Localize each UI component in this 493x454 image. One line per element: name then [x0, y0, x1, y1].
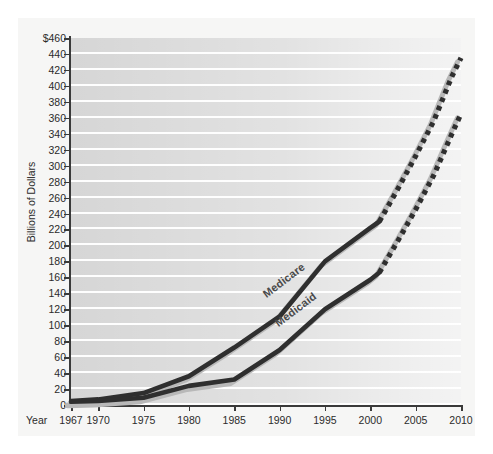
y-tick-label: 420	[4, 65, 66, 75]
gridline	[71, 387, 461, 389]
plot-band	[71, 118, 461, 132]
plot-band	[71, 198, 461, 212]
x-tick-mark	[71, 406, 73, 411]
plot-band	[71, 229, 461, 243]
gridline	[71, 243, 461, 245]
x-tick-label: 1967	[59, 414, 82, 426]
y-tick-mark	[64, 38, 69, 40]
x-tick-mark	[234, 406, 236, 411]
y-tick-mark	[64, 86, 69, 88]
plot-area	[71, 38, 461, 405]
y-tick-label: 180	[4, 256, 66, 266]
y-tick-mark	[64, 245, 69, 247]
y-axis-title: Billions of Dollars	[25, 147, 37, 257]
plot-band	[71, 70, 461, 84]
gridline	[71, 84, 461, 86]
plot-band	[71, 86, 461, 100]
y-tick-mark	[64, 214, 69, 216]
y-tick-mark	[64, 198, 69, 200]
x-tick-label: 1970	[87, 414, 110, 426]
x-tick-label: 1995	[313, 414, 336, 426]
gridline	[71, 259, 461, 261]
gridline	[71, 212, 461, 214]
y-tick-label: 120	[4, 304, 66, 314]
gridline	[71, 275, 461, 277]
gridline	[71, 68, 461, 70]
gridline	[71, 148, 461, 150]
y-tick-mark	[64, 229, 69, 231]
gridline	[71, 164, 461, 166]
plot-band	[71, 182, 461, 196]
y-tick-label: 160	[4, 272, 66, 282]
y-tick-mark	[64, 134, 69, 136]
y-tick-label: 440	[4, 49, 66, 59]
y-tick-label: 80	[4, 336, 66, 346]
y-tick-label: 140	[4, 288, 66, 298]
y-tick-mark	[64, 373, 69, 375]
gridline	[71, 116, 461, 118]
plot-band	[71, 389, 461, 403]
y-tick-label: 0	[4, 400, 66, 410]
x-tick-label: 2000	[359, 414, 382, 426]
y-tick-mark	[64, 357, 69, 359]
x-axis-line	[69, 405, 463, 407]
chart-figure: $460440420400380360340320300280260240220…	[0, 0, 493, 454]
y-tick-label: 380	[4, 97, 66, 107]
y-axis-line	[69, 36, 71, 407]
y-tick-mark	[64, 277, 69, 279]
gridline	[71, 180, 461, 182]
x-tick-mark	[189, 406, 191, 411]
x-tick-label: 1990	[268, 414, 291, 426]
x-tick-mark	[280, 406, 282, 411]
x-tick-label: 2010	[449, 414, 472, 426]
x-tick-mark	[98, 406, 100, 411]
gridline	[71, 196, 461, 198]
y-tick-label: 60	[4, 352, 66, 362]
x-tick-label: 1975	[132, 414, 155, 426]
y-tick-mark	[64, 150, 69, 152]
plot-band	[71, 54, 461, 68]
gridline	[71, 227, 461, 229]
y-tick-mark	[64, 309, 69, 311]
x-tick-mark	[370, 406, 372, 411]
y-tick-label: 400	[4, 81, 66, 91]
y-tick-mark	[64, 405, 69, 407]
plot-band	[71, 309, 461, 323]
x-tick-label: 1985	[223, 414, 246, 426]
y-tick-label: 340	[4, 129, 66, 139]
gridline	[71, 323, 461, 325]
plot-band	[71, 357, 461, 371]
x-axis-title: Year	[26, 414, 47, 426]
y-tick-label: 40	[4, 368, 66, 378]
x-tick-mark	[144, 406, 146, 411]
y-tick-mark	[64, 54, 69, 56]
y-tick-mark	[64, 293, 69, 295]
y-tick-mark	[64, 325, 69, 327]
gridline	[71, 52, 461, 54]
plot-band	[71, 245, 461, 259]
gridline	[71, 100, 461, 102]
y-tick-label: $460	[4, 33, 66, 43]
gridline	[71, 307, 461, 309]
plot-band	[71, 261, 461, 275]
y-tick-mark	[64, 102, 69, 104]
plot-band	[71, 150, 461, 164]
gridline	[71, 355, 461, 357]
y-tick-label: 100	[4, 320, 66, 330]
y-tick-mark	[64, 182, 69, 184]
y-tick-label: 360	[4, 113, 66, 123]
plot-band	[71, 214, 461, 228]
plot-band	[71, 166, 461, 180]
x-tick-mark	[416, 406, 418, 411]
gridline	[71, 371, 461, 373]
x-tick-label: 1980	[177, 414, 200, 426]
x-tick-mark	[325, 406, 327, 411]
plot-band	[71, 102, 461, 116]
plot-band	[71, 373, 461, 387]
y-tick-mark	[64, 261, 69, 263]
plot-band	[71, 341, 461, 355]
gridline	[71, 132, 461, 134]
y-tick-mark	[64, 389, 69, 391]
plot-band	[71, 325, 461, 339]
plot-band	[71, 134, 461, 148]
